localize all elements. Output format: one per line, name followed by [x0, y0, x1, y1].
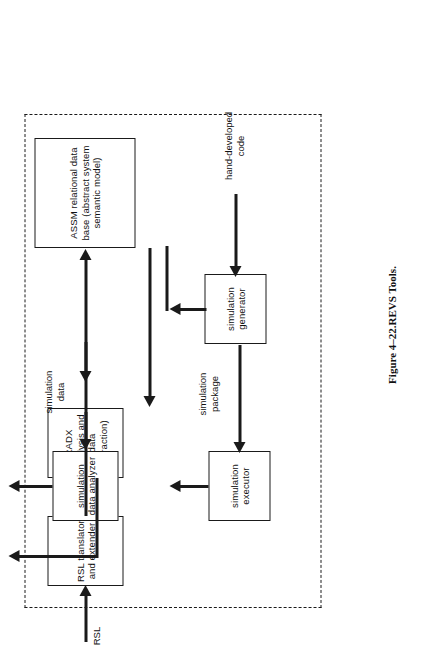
- figure-caption-title: REVS Tools.: [386, 266, 398, 325]
- flow-executor-to-package-arrow: [169, 480, 180, 492]
- label-simulation-data: simulation data: [42, 356, 65, 428]
- flow-simulation-package-arrow: [233, 442, 245, 453]
- flow-reports-arrow: [8, 550, 19, 562]
- flow-reports-vertical: [16, 555, 96, 558]
- flow-translator-to-assm-line: [84, 258, 87, 516]
- flow-simulation-results-arrow: [8, 480, 19, 492]
- flow-simulation-results-line: [16, 485, 52, 488]
- flow-rsl-input-arrow: [79, 585, 91, 596]
- flow-assm-to-generator-vertical: [178, 308, 206, 311]
- label-rsl-input: RSL: [90, 618, 102, 654]
- figure-caption-number: Figure 4–22.: [386, 325, 398, 383]
- flow-reports-horizontal: [95, 478, 98, 558]
- box-simulation-executor[interactable]: simulation executor: [208, 451, 270, 521]
- box-assm[interactable]: ASSM relational data base (abstract syst…: [34, 138, 135, 248]
- flow-assm-to-generator-horizontal: [165, 246, 168, 311]
- box-rsl-translator[interactable]: RSL translator and extender: [47, 516, 123, 586]
- label-simulation-package: simulation package: [196, 356, 219, 432]
- flow-executor-to-package-vertical: [178, 485, 208, 488]
- flow-rsl-input-line: [84, 594, 87, 642]
- flow-simulation-package-line: [238, 345, 241, 443]
- flow-simulation-data-right-arrow: [79, 371, 91, 382]
- flow-assm-to-radx-arrow: [143, 396, 155, 407]
- flow-simulation-data-left-arrow: [79, 439, 91, 450]
- flow-assm-to-generator-arrow: [169, 303, 180, 315]
- label-hand-developed-code: hand-developed code: [222, 100, 245, 192]
- flow-simulation-data-left-segment: [84, 412, 87, 440]
- box-simulation-generator[interactable]: simulation generator: [204, 274, 266, 344]
- flow-handcode-line: [234, 194, 237, 266]
- figure-revs-tools: RSL translator and extender RADX (analys…: [0, 0, 425, 658]
- flow-translator-to-assm-arrow: [79, 249, 91, 260]
- flow-handcode-arrow: [229, 266, 241, 277]
- flow-assm-to-radx-line: [148, 248, 151, 396]
- flow-simulation-data-right-segment: [84, 342, 87, 372]
- figure-caption: Figure 4–22. REVS Tools.: [317, 305, 425, 345]
